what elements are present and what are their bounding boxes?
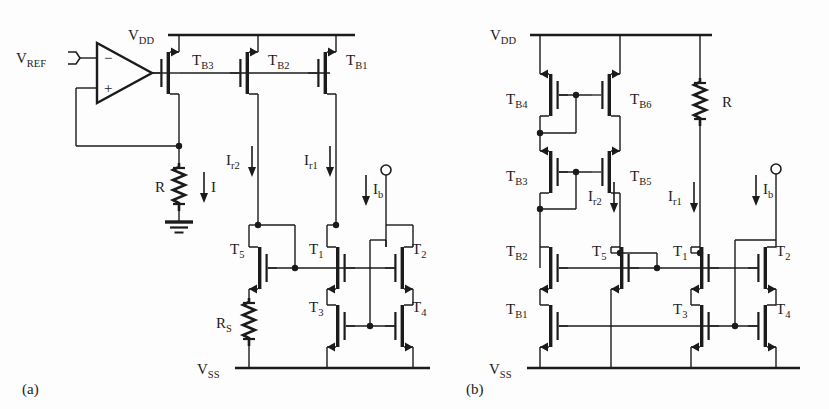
caption-b: (b) — [466, 381, 484, 398]
transistor-t2-b — [748, 247, 776, 294]
opamp-plus-label-a: + — [104, 80, 112, 96]
resistor-label-r-b: R — [722, 94, 732, 110]
transistor-t3-a — [327, 305, 355, 352]
vref-label-a: VREF — [16, 50, 46, 69]
opamp-minus-label-a: − — [104, 50, 112, 66]
transistor-tb4-b — [540, 70, 568, 117]
current-label-ir2-b: Ir2 — [588, 188, 602, 207]
transistor-t4-b — [748, 305, 776, 352]
vss-label-b: VSS — [489, 361, 512, 380]
current-arrow-ir2-a — [248, 146, 256, 177]
transistor-label-t5-b: T5 — [592, 243, 606, 262]
resistor-label-r-a: R — [155, 179, 165, 195]
transistor-t5-b — [611, 247, 639, 294]
current-arrow-ir1-a — [326, 146, 334, 177]
current-arrow-ir2-b — [610, 182, 618, 213]
vref-connector-icon — [68, 52, 80, 64]
transistor-t5-a — [249, 247, 277, 294]
transistor-t3-b — [691, 305, 719, 352]
transistor-label-t1-b: T1 — [673, 243, 687, 262]
ground-symbol-a — [165, 222, 193, 233]
transistor-label-t3-b: T3 — [673, 301, 687, 320]
current-arrow-i-a — [200, 172, 208, 203]
current-label-ir1-a: Ir1 — [304, 152, 318, 171]
transistor-label-t4-a: T4 — [412, 299, 427, 318]
figure-canvas: VDD − + VREF TB3 — [0, 0, 829, 409]
transistor-t1-a — [327, 247, 355, 294]
transistor-t1-b — [691, 247, 719, 294]
transistor-label-tb5-b: TB5 — [630, 168, 651, 187]
current-arrow-ib-a — [362, 175, 370, 206]
transistor-label-tb2-a: TB2 — [268, 52, 289, 71]
transistor-label-t4-b: T4 — [776, 301, 791, 320]
current-label-ir1-b: Ir1 — [668, 188, 682, 207]
transistor-tb6-b — [592, 70, 620, 117]
vdd-label-b: VDD — [490, 27, 516, 46]
transistor-tb5-b — [592, 147, 620, 194]
node-dot-t5-gate-b — [654, 265, 660, 271]
current-label-ib-b: Ib — [763, 181, 773, 200]
transistor-tb2-b — [540, 247, 568, 294]
current-arrow-ib-b — [752, 175, 760, 206]
transistor-label-tb3-b: TB3 — [506, 168, 527, 187]
transistor-tb1-a — [308, 48, 336, 95]
transistor-label-tb1-b: TB1 — [506, 301, 527, 320]
caption-a: (a) — [22, 381, 39, 398]
transistor-label-tb1-a: TB1 — [346, 52, 367, 71]
current-label-ib-a: Ib — [373, 181, 383, 200]
current-label-ir2-a: Ir2 — [226, 152, 240, 171]
transistor-tb3-b — [540, 147, 568, 194]
circuit-b: VDD TB4 TB6 T — [466, 27, 800, 398]
vdd-label-a: VDD — [128, 27, 154, 46]
transistor-tb2-a — [230, 48, 258, 95]
transistor-label-tb3-a: TB3 — [192, 52, 213, 71]
transistor-label-t5-a: T5 — [230, 241, 244, 260]
transistor-label-t2-b: T2 — [776, 243, 790, 262]
transistor-t2-a — [385, 247, 413, 294]
transistor-label-tb6-b: TB6 — [630, 91, 651, 110]
circuit-a: VDD − + VREF TB3 — [16, 27, 430, 398]
transistor-label-tb4-b: TB4 — [506, 91, 528, 110]
resistor-label-rs-a: RS — [216, 315, 232, 334]
current-label-i-a: I — [211, 179, 216, 195]
resistor-r-b — [694, 78, 706, 126]
transistor-label-t3-a: T3 — [309, 299, 323, 318]
transistor-tb3-a — [151, 48, 179, 95]
current-arrow-ir1-b — [690, 182, 698, 213]
transistor-label-t1-a: T1 — [309, 241, 323, 260]
resistor-r-a — [173, 163, 185, 211]
resistor-rs-a — [243, 298, 255, 346]
vss-label-a: VSS — [197, 361, 220, 380]
transistor-label-tb2-b: TB2 — [506, 243, 527, 262]
transistor-tb1-b — [540, 305, 568, 352]
transistor-t4-a — [385, 305, 413, 352]
transistor-label-t2-a: T2 — [412, 241, 426, 260]
output-terminal-ib-a[interactable] — [381, 165, 391, 175]
output-terminal-ib-b[interactable] — [771, 164, 781, 174]
circuit-schematic-figure: VDD − + VREF TB3 — [0, 0, 829, 409]
